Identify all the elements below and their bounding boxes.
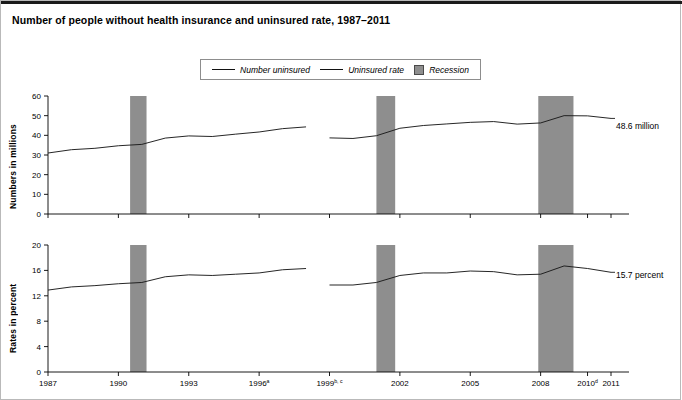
recession-band [538, 245, 573, 372]
y-tick-label: 12 [32, 292, 41, 301]
x-tick-label: 1990 [109, 379, 127, 388]
y-tick-label: 30 [32, 151, 41, 160]
chart-plot-svg: 01020304050600481216201987199019931996a1… [1, 1, 682, 400]
recession-band [376, 245, 395, 372]
recession-band [538, 96, 573, 214]
x-tick-label: 1993 [180, 379, 198, 388]
data-line-uninsured-rate [48, 269, 306, 291]
x-tick-label: 1987 [39, 379, 57, 388]
x-tick-label: 2002 [391, 379, 409, 388]
recession-band [376, 96, 395, 214]
x-tick-label: 2005 [461, 379, 479, 388]
x-tick-label: 2011 [602, 379, 620, 388]
x-tick-label: 1996a [249, 378, 270, 388]
annotation-uninsured-rate-end: 15.7 percent [616, 270, 663, 280]
x-tick-label: 2008 [532, 379, 550, 388]
data-line-number-uninsured [48, 127, 306, 153]
y-tick-label: 20 [32, 241, 41, 250]
recession-band [130, 96, 146, 214]
y-tick-label: 20 [32, 171, 41, 180]
y-tick-label: 8 [37, 317, 42, 326]
y-tick-label: 4 [37, 343, 42, 352]
y-tick-label: 50 [32, 112, 41, 121]
y-tick-label: 40 [32, 131, 41, 140]
y-tick-label: 60 [32, 92, 41, 101]
annotation-number-uninsured-end: 48.6 million [616, 121, 659, 131]
y-tick-label: 0 [37, 210, 42, 219]
x-tick-label: 2010d [577, 378, 598, 388]
y-tick-label: 0 [37, 368, 42, 377]
recession-band [130, 245, 146, 372]
x-tick-label: 1999b, c [316, 378, 343, 388]
y-tick-label: 10 [32, 190, 41, 199]
y-tick-label: 16 [32, 266, 41, 275]
